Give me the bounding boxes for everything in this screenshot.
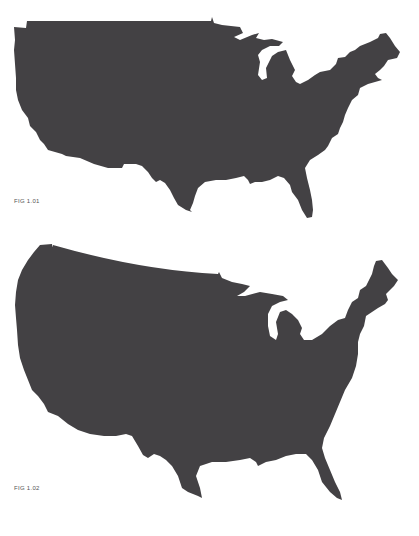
figure-1-01: FIG 1.01 bbox=[0, 0, 419, 230]
us-map-silhouette-2 bbox=[0, 230, 419, 536]
us-map-silhouette-1 bbox=[0, 0, 419, 230]
figure-caption: FIG 1.01 bbox=[14, 198, 40, 204]
figure-1-02: FIG 1.02 bbox=[0, 230, 419, 536]
figure-caption: FIG 1.02 bbox=[14, 485, 40, 491]
